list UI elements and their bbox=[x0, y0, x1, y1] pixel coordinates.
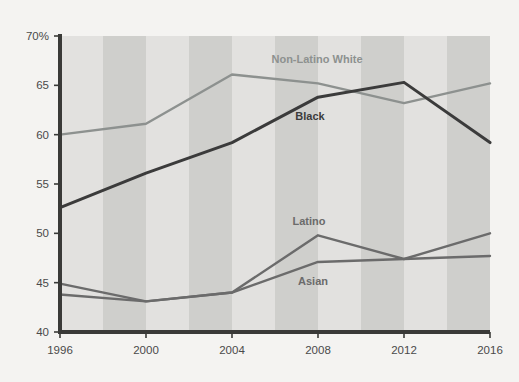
y-tick-label: 40 bbox=[36, 326, 49, 338]
plot-band bbox=[318, 36, 361, 332]
x-tick-label: 2008 bbox=[305, 344, 331, 356]
plot-band bbox=[447, 36, 490, 332]
y-tick-label: 70% bbox=[26, 30, 49, 42]
series-label-asian: Asian bbox=[298, 275, 328, 287]
x-tick-label: 2000 bbox=[133, 344, 159, 356]
y-tick-label: 45 bbox=[36, 277, 49, 289]
x-tick-label: 2016 bbox=[477, 344, 503, 356]
plot-band bbox=[189, 36, 232, 332]
x-tick-label: 2004 bbox=[219, 344, 245, 356]
x-tick-label: 2012 bbox=[391, 344, 417, 356]
y-tick-label: 50 bbox=[36, 227, 49, 239]
series-label-latino: Latino bbox=[293, 215, 326, 227]
line-chart: 70%656055504540 199620002004200820122016… bbox=[0, 0, 519, 382]
chart-container: 70%656055504540 199620002004200820122016… bbox=[0, 0, 519, 382]
series-label-black: Black bbox=[295, 110, 325, 122]
plot-band bbox=[404, 36, 447, 332]
y-tick-label: 60 bbox=[36, 129, 49, 141]
x-tick-label: 1996 bbox=[47, 344, 73, 356]
plot-band-group bbox=[60, 36, 490, 332]
series-label-non-latino-white: Non-Latino White bbox=[271, 53, 362, 65]
plot-band bbox=[361, 36, 404, 332]
plot-band bbox=[103, 36, 146, 332]
y-tick-label: 65 bbox=[36, 79, 49, 91]
y-tick-label: 55 bbox=[36, 178, 49, 190]
plot-band bbox=[146, 36, 189, 332]
